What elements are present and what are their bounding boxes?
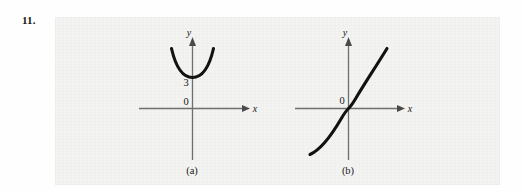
graph-b-x-axis-arrowhead [397, 105, 405, 112]
graph-a-y-intercept-label: 3 [183, 77, 188, 88]
graph-a-origin-label: 0 [183, 96, 188, 107]
graph-a-caption: (a) [186, 165, 198, 177]
graph-b-y-axis-label: y [342, 27, 348, 38]
graph-b-caption: (b) [342, 165, 355, 177]
page-canvas: 11. y x 3 0 (a) [0, 0, 523, 193]
graph-b-y-axis-arrowhead [345, 37, 352, 46]
graph-a-x-axis-arrowhead [242, 105, 250, 112]
graph-b: y x 0 (b) [295, 27, 413, 177]
graph-a: y x 3 0 (a) [139, 27, 258, 177]
graph-a-y-axis-label: y [186, 27, 192, 38]
graph-b-x-axis-label: x [407, 103, 413, 114]
figure-graphics: y x 3 0 (a) y x 0 (b) [0, 0, 523, 193]
graph-a-x-axis-label: x [252, 103, 258, 114]
graph-a-y-axis-arrowhead [189, 37, 196, 46]
graph-b-origin-label: 0 [339, 95, 344, 106]
